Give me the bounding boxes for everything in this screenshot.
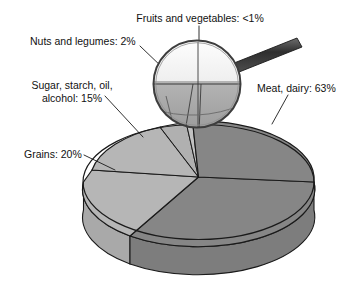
label-sugar-line1: Sugar, starch, oil, (16, 79, 128, 92)
label-nuts-legumes: Nuts and legumes: 2% (30, 35, 136, 48)
pie-chart-figure: Fruits and vegetables: <1% Nuts and legu… (0, 0, 361, 293)
label-fruits-vegetables: Fruits and vegetables: <1% (110, 12, 290, 25)
label-grains: Grains: 20% (24, 148, 82, 161)
leader-line-meat-dairy (272, 95, 288, 124)
magnifier-lens (150, 41, 244, 135)
pie-3d-body (83, 121, 315, 275)
label-sugar-line2: alcohol: 15% (16, 92, 128, 105)
label-meat-dairy: Meat, dairy: 63% (257, 82, 336, 95)
